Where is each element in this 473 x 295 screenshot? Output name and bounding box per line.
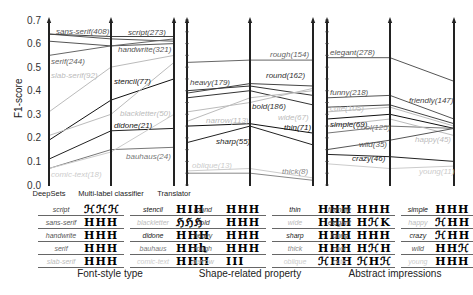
axis-arrow-icon [452, 17, 456, 23]
y-tick-label: 0.4 [27, 85, 41, 96]
legend-glyph-sample: HHH [84, 242, 124, 255]
axis-names: DeepSets Multi-label classifier Translat… [33, 189, 192, 198]
legend-name: heavy [180, 229, 226, 242]
legend-glyph-sample: HHH [435, 203, 473, 216]
legend-name: sans-serif [38, 216, 84, 229]
series-label-bold: bold(186) [252, 102, 286, 111]
legend-row-funny: funnyHHH [322, 229, 395, 242]
legend-row-cute: cuteℋHℋ [322, 255, 395, 268]
legend-name: simple [401, 203, 436, 216]
legend-name: comic-text [130, 255, 176, 268]
axis-arrow-icon [109, 17, 113, 23]
panel-title-font-style: Font-style type [50, 268, 170, 279]
legend-name: narrow [180, 255, 226, 268]
legend-glyph-sample: ℋℋℋ [84, 203, 124, 216]
series-label-friendly: friendly(147) [409, 96, 454, 105]
series-label-script: script(273) [128, 28, 166, 37]
legend-name: serif [38, 242, 84, 255]
series-label-slab-serif: slab-serif(92) [51, 71, 98, 80]
legend-table: roundHHHboldHHHheavyHHHroughHHHnarrowӀӀӀ [180, 203, 266, 268]
series-label-elegant: elegant(278) [330, 48, 375, 57]
series-label-round: round(162) [266, 71, 305, 80]
series-label-blackletter: blackletter(50) [120, 109, 171, 118]
axis-name-multilabel: Multi-label classifier [78, 189, 144, 198]
legend-name: young [401, 255, 436, 268]
series-label-handwrite: handwrite(321) [118, 45, 172, 54]
legend-row-serif: serifHHH [38, 242, 124, 255]
legend-name: rough [180, 242, 226, 255]
legend-glyph-sample: HHℋ [435, 242, 473, 255]
legend-row-round: roundHHH [180, 203, 266, 216]
axis-arrow-icon [388, 17, 392, 23]
legend-name: handwrite [38, 229, 84, 242]
series-label-funny: funny(218) [330, 88, 369, 97]
legend-row-handwrite: handwriteHHH [38, 229, 124, 242]
legend-glyph-sample: HHH [226, 242, 266, 255]
series-label-wide: wide(67) [278, 113, 309, 122]
series-label-wild: wild(35) [359, 140, 387, 149]
legend-glyph-sample: HHH [84, 229, 124, 242]
legend-table: friendlyHHHelegantHℋKfunnyHHHcoolHℋHcute… [322, 203, 395, 268]
y-tick-label: 0.5 [27, 62, 41, 73]
series-label-didone: didone(21) [114, 121, 153, 130]
legend-name: slab-serif [38, 255, 84, 268]
legend-name: cool [322, 242, 357, 255]
axis-arrow-icon [47, 17, 51, 23]
axis-arrow-icon [248, 17, 252, 23]
y-tick-label: 0.3 [27, 109, 41, 120]
y-tick-label: 0.7 [27, 15, 41, 26]
series-label-serif: serif(244) [51, 57, 85, 66]
y-tick-label: 0.2 [27, 132, 41, 143]
series-label-rough: rough(154) [270, 50, 309, 59]
legend-row-narrow: narrowӀӀӀ [180, 255, 266, 268]
legend-row-crazy: crazyℋHH [401, 229, 473, 242]
legend-name: wide [272, 216, 318, 229]
panel-title-abstract: Abstract impressions [330, 268, 460, 279]
legend-glyph-sample: ӀӀӀ [226, 255, 266, 268]
legend-name: oblique [272, 255, 318, 268]
series-label-cool: cool(125) [357, 123, 391, 132]
series-label-sharp: sharp(55) [216, 137, 251, 146]
legend-glyph-sample: ℋHH [435, 229, 473, 242]
legend-glyph-sample: HHH [84, 255, 124, 268]
legend-name: didone [130, 229, 176, 242]
legend-glyph-sample: HℋK [357, 216, 395, 229]
legend-name: blackletter [130, 216, 176, 229]
legend-abstract-impressions: friendlyHHHelegantHℋKfunnyHHHcoolHℋHcute… [322, 203, 473, 268]
legend-row-cool: coolHℋH [322, 242, 395, 255]
series-label-young: young(11) [418, 167, 455, 176]
series-label-crazy: crazy(46) [352, 154, 386, 163]
legend-name: friendly [322, 203, 357, 216]
legend-name: elegant [322, 216, 357, 229]
legend-glyph-sample: HℋH [357, 242, 395, 255]
y-tick-label: 0.1 [27, 156, 41, 167]
legend-table: simpleHHHhappyℋHHcrazyℋHHwildHHℋyoungHHH [401, 203, 473, 268]
series-label-oblique: oblique(13) [192, 161, 232, 170]
legend-row-script: scriptℋℋℋ [38, 203, 124, 216]
legend-glyph-sample: HHH [357, 229, 395, 242]
axis-name-deepsets: DeepSets [33, 189, 66, 198]
series-label-sans-serif: sans-serif(408) [56, 27, 110, 36]
legend-name: cute [322, 255, 357, 268]
y-tick-label: 0.6 [27, 38, 41, 49]
legend-row-rough: roughHHH [180, 242, 266, 255]
legend-glyph-sample: ℋHH [435, 216, 473, 229]
legend-name: crazy [401, 229, 436, 242]
legend-row-elegant: elegantHℋK [322, 216, 395, 229]
legend-name: sharp [272, 229, 318, 242]
series-label-heavy: heavy(179) [190, 78, 230, 87]
legend-name: wild [401, 242, 436, 255]
series-label-narrow: narrow(113) [206, 116, 249, 125]
legend-row-sans-serif: sans-serifHHH [38, 216, 124, 229]
legend-name: happy [401, 216, 436, 229]
series-label-cute: cute(105) [330, 104, 364, 113]
series-label-thick: thick(8) [282, 167, 309, 176]
legend-name: round [180, 203, 226, 216]
legend-row-young: youngHHH [401, 255, 473, 268]
legend-row-friendly: friendlyHHH [322, 203, 395, 216]
y-axis-label: F1-score [13, 78, 24, 118]
series-label-stencil: stencil(77) [114, 77, 151, 86]
parallel-coordinates-chart: 0.00.10.20.30.40.50.60.7 F1-score sans-s… [0, 0, 473, 200]
series-label-comic-text: comic-text(18) [51, 170, 102, 179]
y-axis-ticks: 0.00.10.20.30.40.50.60.7 [27, 15, 41, 191]
